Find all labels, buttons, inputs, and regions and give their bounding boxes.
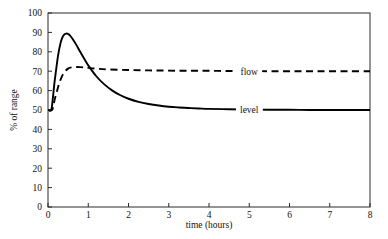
x-tick-label: 0 [46, 210, 51, 220]
data-series-group [48, 34, 370, 111]
y-tick-label: 10 [33, 183, 43, 193]
y-tick-label: 30 [33, 144, 43, 154]
x-axis-tick-labels: 012345678 [46, 210, 373, 220]
x-axis-title: time (hours) [186, 220, 233, 231]
y-tick-label: 40 [33, 125, 43, 135]
x-tick-label: 7 [327, 210, 332, 220]
y-tick-label: 50 [33, 105, 43, 115]
y-tick-label: 80 [33, 47, 43, 57]
series-line-flow [48, 67, 370, 111]
x-tick-label: 3 [166, 210, 171, 220]
x-tick-label: 4 [207, 210, 212, 220]
x-tick-label: 1 [86, 210, 91, 220]
y-tick-label: 20 [33, 164, 43, 174]
series-label-flow: flow [241, 67, 259, 77]
x-axis-ticks [48, 203, 370, 207]
y-axis-tick-labels: 0102030405060708090100 [28, 8, 43, 212]
x-tick-label: 8 [368, 210, 373, 220]
x-tick-label: 2 [126, 210, 131, 220]
series-label-level: level [240, 105, 259, 115]
x-tick-label: 6 [287, 210, 292, 220]
chart-canvas: 0102030405060708090100 012345678 flow le… [0, 0, 388, 239]
y-tick-label: 100 [28, 8, 43, 18]
y-tick-label: 60 [33, 86, 43, 96]
y-axis-title: % of range [9, 89, 19, 131]
series-line-level [48, 34, 370, 111]
y-tick-label: 0 [37, 202, 42, 212]
series-annotations: flow level [236, 66, 263, 117]
x-tick-label: 5 [247, 210, 252, 220]
y-tick-label: 70 [33, 67, 43, 77]
chart-figure: 0102030405060708090100 012345678 flow le… [0, 0, 388, 239]
y-tick-label: 90 [33, 28, 43, 38]
